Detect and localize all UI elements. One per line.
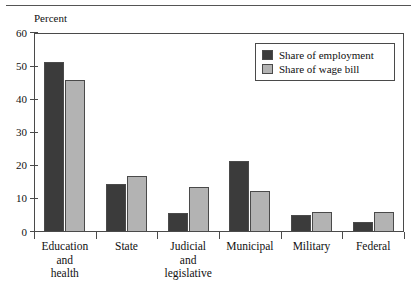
y-axis-unit-caption: Percent [34,12,67,24]
x-axis-tick [219,232,220,239]
bar [168,213,188,232]
bar [65,80,85,232]
y-axis-tick-label: 20 [0,160,27,171]
legend-swatch-icon-employment [262,50,273,60]
x-axis-category-label: Military [281,240,343,254]
x-axis-tick [157,232,158,239]
legend-swatch-icon-wage-bill [262,64,273,74]
y-axis-tick [30,198,38,199]
y-axis-tick [30,66,38,67]
y-axis-tick [30,32,38,33]
bar [353,222,373,232]
bar [291,215,311,232]
x-axis-tick [281,232,282,239]
bar [312,212,332,232]
legend-item-share-of-employment: Share of employment [262,48,389,62]
x-axis-tick [96,232,97,239]
y-axis-tick-label: 40 [0,94,27,105]
x-axis-category-label: Municipal [219,240,281,254]
x-axis-tick [342,232,343,239]
y-axis-tick [30,165,38,166]
bar [127,176,147,232]
x-axis-category-label: State [96,240,158,254]
y-axis-tick-label: 0 [0,227,27,238]
y-axis-tick [30,99,38,100]
x-axis-category-label: Federal [342,240,404,254]
legend-item-share-of-wage-bill: Share of wage bill [262,62,389,76]
y-axis-tick-label: 50 [0,61,27,72]
bar [250,191,270,232]
bar [106,184,126,232]
x-axis-tick [404,232,405,239]
bar [229,161,249,232]
bar [374,212,394,232]
bar [44,62,64,232]
figure-top-rule [6,5,411,6]
x-axis-tick [34,232,35,239]
legend-label-wage-bill: Share of wage bill [279,63,359,75]
chart-legend: Share of employment Share of wage bill [255,43,395,81]
y-axis-tick [30,132,38,133]
x-axis-category-label: Judicial and legislative [157,240,219,281]
y-axis-tick-label: 60 [0,28,27,39]
bar [189,187,209,232]
legend-label-employment: Share of employment [279,49,374,61]
y-axis-tick-label: 30 [0,127,27,138]
y-axis-tick-label: 10 [0,193,27,204]
x-axis-category-label: Education and health [34,240,96,281]
